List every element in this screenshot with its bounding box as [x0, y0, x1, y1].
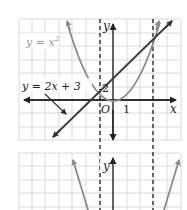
y-tick-2-label: 2 [102, 82, 109, 95]
line-label: y = 2x + 3 [21, 80, 81, 93]
y-axis-label: y [102, 19, 110, 33]
parabola-label: y = x2 [25, 34, 60, 49]
x-tick-1-label: 1 [123, 103, 130, 116]
bottom-parabola-right [164, 160, 179, 210]
bottom-y-axis-label: y [102, 159, 110, 173]
line-arrow-top [165, 21, 172, 28]
graph-figure: y = x2 y = 2x + 3 y x O 1 2 y [0, 0, 187, 210]
label-pointer-arrow [45, 94, 66, 114]
origin-label: O [101, 103, 110, 116]
x-axis-label: x [170, 102, 177, 116]
